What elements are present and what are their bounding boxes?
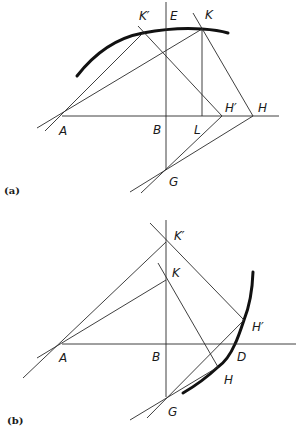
- figure-a-arc: [77, 29, 228, 77]
- label-a-K: K: [205, 8, 214, 22]
- label-b-A: A: [58, 351, 67, 365]
- label-a-E: E: [170, 9, 178, 23]
- figure-b-line-AK: [37, 280, 166, 358]
- figure-b-line-K-prime-H-prime: [150, 223, 244, 320]
- label-a-K-prime: K′: [139, 9, 150, 23]
- figure-a-line-HG: [130, 116, 253, 192]
- label-b-H-prime: H′: [252, 320, 264, 334]
- label-b-G: G: [168, 405, 177, 419]
- figure-a-line-AK: [37, 29, 202, 128]
- figure-a: K′ E K A B L H′ H G (a): [4, 2, 279, 196]
- figure-b-caption: (b): [7, 415, 23, 426]
- label-b-H: H: [224, 373, 233, 387]
- label-b-D: D: [237, 350, 246, 364]
- figure-a-line-K-prime-H-prime: [138, 26, 222, 116]
- label-b-K-prime: K′: [174, 229, 185, 243]
- figure-b-line-KH: [158, 263, 218, 367]
- figure-b-arc: [183, 272, 253, 393]
- label-a-H-prime: H′: [225, 101, 237, 115]
- figure-a-caption: (a): [4, 185, 20, 196]
- label-b-B: B: [152, 350, 160, 364]
- figure-b-line-H-prime-G: [147, 320, 244, 418]
- label-b-K: K: [172, 266, 181, 280]
- label-a-B: B: [153, 123, 161, 137]
- label-a-L: L: [194, 123, 201, 137]
- label-a-H: H: [258, 101, 267, 115]
- figure-b-line-AK-prime: [23, 242, 166, 378]
- geometric-construction-figure: K′ E K A B L H′ H G (a) K′ K A B H′: [0, 0, 296, 440]
- label-a-A: A: [58, 124, 67, 138]
- figure-b: K′ K A B H′ D H G (b): [7, 220, 296, 426]
- label-a-G: G: [169, 175, 178, 189]
